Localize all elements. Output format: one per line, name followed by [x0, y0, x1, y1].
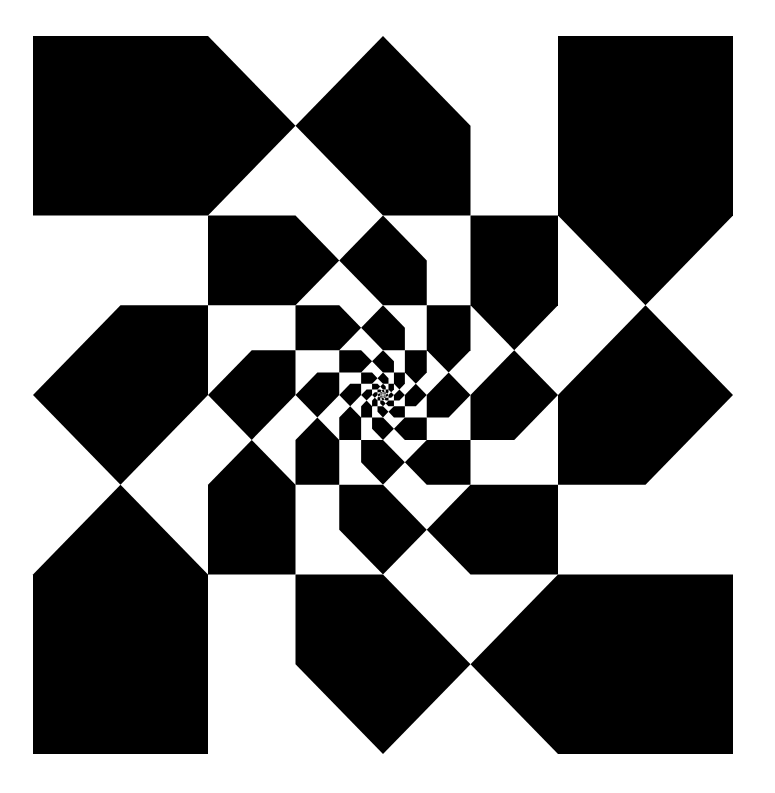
edge-pentagon-tile — [383, 394, 384, 395]
corner-pentagon-tile — [405, 350, 427, 384]
corner-pentagon-tile — [388, 406, 404, 417]
edge-pentagon-tile — [378, 406, 389, 417]
edge-pentagon-tile — [382, 398, 385, 401]
spiral-artwork — [0, 0, 775, 793]
corner-pentagon-tile — [383, 396, 384, 397]
corner-pentagon-tile — [558, 36, 733, 305]
corner-pentagon-tile — [384, 396, 386, 397]
edge-pentagon-tile — [471, 350, 559, 440]
edge-pentagon-tile — [427, 373, 471, 418]
edge-pentagon-tile — [378, 373, 389, 384]
edge-pentagon-tile — [372, 350, 394, 372]
corner-pentagon-tile — [361, 401, 372, 418]
corner-pentagon-tile — [339, 406, 361, 440]
edge-pentagon-tile — [372, 392, 377, 398]
corner-pentagon-tile — [384, 398, 388, 401]
edge-pentagon-tile — [382, 396, 383, 397]
edge-pentagon-tile — [382, 395, 383, 396]
edge-pentagon-tile — [382, 392, 383, 393]
edge-pentagon-tile — [33, 305, 208, 485]
edge-pentagon-tile — [339, 384, 361, 406]
corner-pentagon-tile — [378, 396, 381, 400]
edge-pentagon-tile — [372, 417, 394, 439]
edge-pentagon-tile — [380, 394, 381, 395]
corner-pentagon-tile — [386, 401, 394, 407]
edge-pentagon-tile — [296, 373, 340, 418]
corner-pentagon-tile — [405, 440, 471, 485]
corner-pentagon-tile — [394, 373, 405, 390]
edge-pentagon-tile — [380, 401, 385, 407]
edge-pentagon-tile — [361, 440, 405, 485]
corner-pentagon-tile — [296, 305, 362, 350]
edge-pentagon-tile — [405, 384, 427, 406]
edge-pentagon-tile — [339, 485, 427, 575]
corner-pentagon-tile — [208, 216, 339, 306]
corner-pentagon-tile — [388, 384, 393, 392]
edge-pentagon-tile — [296, 575, 471, 755]
corner-pentagon-tile — [372, 384, 380, 390]
tile-group — [33, 36, 733, 754]
corner-pentagon-tile — [33, 485, 208, 754]
edge-pentagon-tile — [386, 394, 389, 397]
corner-pentagon-tile — [386, 389, 389, 393]
edge-pentagon-tile — [208, 350, 296, 440]
edge-pentagon-tile — [384, 394, 385, 395]
corner-pentagon-tile — [372, 398, 377, 406]
edge-pentagon-tile — [383, 396, 384, 397]
corner-pentagon-tile — [380, 392, 382, 393]
edge-pentagon-tile — [388, 392, 393, 398]
edge-pentagon-tile — [382, 389, 385, 392]
corner-pentagon-tile — [427, 485, 558, 575]
corner-pentagon-tile — [361, 373, 377, 384]
edge-pentagon-tile — [361, 389, 372, 400]
edge-pentagon-tile — [384, 395, 385, 396]
edge-pentagon-tile — [339, 216, 427, 306]
corner-pentagon-tile — [384, 394, 385, 395]
edge-pentagon-tile — [558, 305, 733, 485]
corner-pentagon-tile — [380, 396, 381, 398]
edge-pentagon-tile — [378, 394, 381, 397]
edge-pentagon-tile — [380, 384, 385, 390]
corner-pentagon-tile — [382, 395, 383, 396]
corner-pentagon-tile — [384, 392, 385, 394]
corner-pentagon-tile — [394, 417, 427, 439]
corner-pentagon-tile — [427, 305, 471, 372]
corner-pentagon-tile — [378, 389, 382, 392]
edge-pentagon-tile — [361, 305, 405, 350]
corner-pentagon-tile — [33, 36, 296, 216]
corner-pentagon-tile — [471, 575, 734, 755]
corner-pentagon-tile — [471, 216, 559, 351]
corner-pentagon-tile — [208, 440, 296, 575]
edge-pentagon-tile — [296, 36, 471, 216]
corner-pentagon-tile — [382, 394, 383, 395]
corner-pentagon-tile — [296, 417, 340, 484]
edge-pentagon-tile — [394, 389, 405, 400]
corner-pentagon-tile — [339, 350, 372, 372]
